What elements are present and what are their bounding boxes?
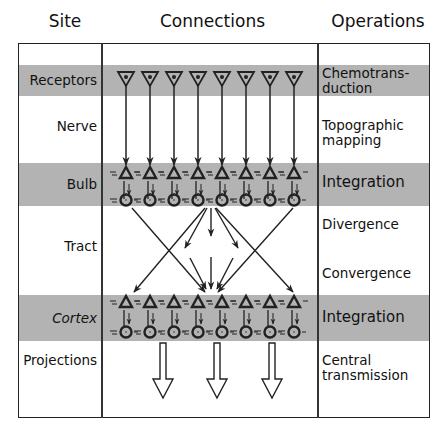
projection-arrow-icon [153,343,173,398]
bulb-cells [110,167,308,206]
tract-connections [132,208,293,292]
projection-arrows [153,343,282,398]
connections-diagram [0,0,445,434]
projection-arrow-icon [207,343,227,398]
nerve-axons [126,86,294,165]
projection-arrow-icon [262,343,282,398]
cortex-cells [110,296,308,338]
receptor-row [118,72,302,86]
